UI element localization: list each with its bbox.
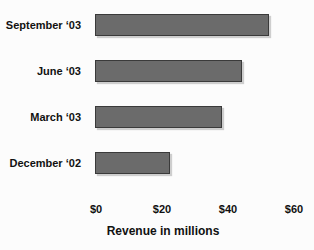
bar-september-03 bbox=[95, 14, 269, 36]
category-label-september-03: September ‘03 bbox=[0, 14, 81, 36]
x-tick-label-40: $40 bbox=[219, 203, 237, 215]
x-axis-title: Revenue in millions bbox=[107, 224, 220, 238]
bar-row-september-03: September ‘03 bbox=[0, 14, 314, 36]
category-label-june-03: June ‘03 bbox=[0, 60, 81, 82]
x-tick-label-60: $60 bbox=[285, 203, 303, 215]
bar-december-02 bbox=[95, 152, 170, 174]
bar-row-december-02: December ‘02 bbox=[0, 152, 314, 174]
bar-row-june-03: June ‘03 bbox=[0, 60, 314, 82]
revenue-bar-chart: September ‘03 June ‘03 March ‘03 Decembe… bbox=[0, 0, 314, 250]
bar-june-03 bbox=[95, 60, 242, 82]
category-label-march-03: March ‘03 bbox=[0, 106, 81, 128]
bar-march-03 bbox=[95, 106, 222, 128]
x-tick-label-20: $20 bbox=[153, 203, 171, 215]
bar-row-march-03: March ‘03 bbox=[0, 106, 314, 128]
x-tick-label-0: $0 bbox=[90, 203, 102, 215]
category-label-december-02: December ‘02 bbox=[0, 152, 81, 174]
